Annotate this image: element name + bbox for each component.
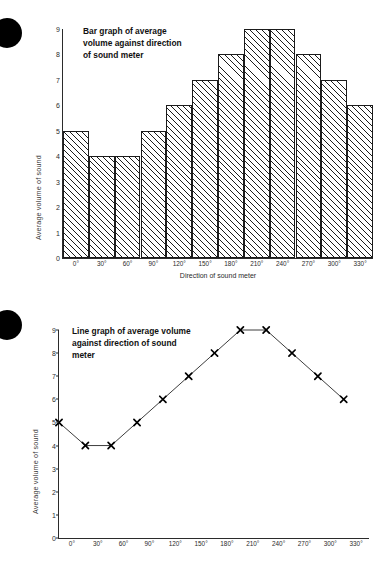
y-axis-tick-label: 0 xyxy=(56,255,60,262)
y-axis-tick-mark xyxy=(56,538,59,539)
y-axis-tick-label: 7 xyxy=(56,76,60,83)
x-axis-tick-label: 60° xyxy=(119,541,129,547)
bar xyxy=(244,29,270,258)
x-axis-tick-label: 90° xyxy=(149,261,159,267)
y-axis-tick-mark xyxy=(56,468,59,469)
y-axis-tick-label: 8 xyxy=(56,51,60,58)
data-point-marker xyxy=(289,350,295,356)
x-axis-tick-label: 30° xyxy=(97,261,107,267)
data-point-marker xyxy=(341,396,347,402)
bar xyxy=(270,29,296,258)
bar xyxy=(166,105,192,258)
bar xyxy=(296,54,322,258)
x-axis-tick-label: 180° xyxy=(224,261,237,267)
bar-x-axis-title: Direction of sound meter xyxy=(63,272,373,279)
bar-graph-figure: Average volume of sound Bar graph of ave… xyxy=(0,0,379,290)
y-axis-tick-label: 2 xyxy=(56,204,60,211)
x-axis-tick-label: 180° xyxy=(220,541,233,547)
y-axis-tick-mark xyxy=(56,399,59,400)
y-axis-tick-mark xyxy=(56,353,59,354)
data-point-marker xyxy=(211,350,217,356)
y-axis-tick-mark xyxy=(56,445,59,446)
x-axis-tick-label: 30° xyxy=(93,541,103,547)
x-axis-tick-label: 60° xyxy=(123,261,133,267)
data-point-marker xyxy=(134,419,140,425)
x-axis-tick-label: 90° xyxy=(145,541,155,547)
y-axis-tick-label: 9 xyxy=(56,26,60,33)
y-axis-tick-label: 5 xyxy=(56,127,60,134)
line-graph-figure: Average volume of sound Line graph of av… xyxy=(0,290,379,569)
x-axis-tick-label: 0° xyxy=(73,261,79,267)
y-axis-tick-mark xyxy=(56,514,59,515)
x-axis-tick-label: 120° xyxy=(173,261,186,267)
bar-plot-area: Bar graph of average volume against dire… xyxy=(62,29,373,259)
bar xyxy=(218,54,244,258)
x-axis-tick-label: 300° xyxy=(328,261,341,267)
bar xyxy=(321,80,347,258)
y-axis-tick-mark xyxy=(56,422,59,423)
bar xyxy=(141,131,167,258)
x-axis-tick-label: 270° xyxy=(298,541,311,547)
y-axis-tick-label: 6 xyxy=(56,102,60,109)
x-axis-tick-label: 0° xyxy=(69,541,75,547)
x-axis-tick-label: 300° xyxy=(324,541,337,547)
x-axis-tick-label: 330° xyxy=(349,541,362,547)
data-point-marker xyxy=(160,396,166,402)
x-axis-tick-label: 210° xyxy=(246,541,259,547)
bar-y-axis-label: Average volume of sound xyxy=(34,155,43,240)
y-axis-tick-label: 3 xyxy=(56,178,60,185)
x-axis-tick-label: 150° xyxy=(194,541,207,547)
y-axis-tick-label: 1 xyxy=(56,229,60,236)
x-axis-tick-label: 240° xyxy=(276,261,289,267)
bar xyxy=(63,131,89,258)
y-axis-tick-label: 4 xyxy=(56,153,60,160)
x-axis-tick-label: 240° xyxy=(272,541,285,547)
bar-series xyxy=(63,29,373,258)
x-axis-tick-label: 120° xyxy=(169,541,182,547)
data-point-marker xyxy=(315,373,321,379)
bar xyxy=(192,80,218,258)
y-axis-tick-mark xyxy=(56,330,59,331)
bullet-marker-icon xyxy=(0,310,22,340)
line-path xyxy=(59,330,344,446)
x-axis-tick-label: 150° xyxy=(198,261,211,267)
x-axis-tick-label: 270° xyxy=(302,261,315,267)
line-plot-area: Line graph of average volume against dir… xyxy=(58,330,369,539)
bar xyxy=(115,156,141,258)
y-axis-tick-mark xyxy=(56,491,59,492)
line-y-axis-label: Average volume of sound xyxy=(31,429,40,514)
bullet-marker-icon xyxy=(0,18,22,48)
y-axis-tick-mark xyxy=(56,376,59,377)
bar xyxy=(347,105,373,258)
x-axis-tick-label: 330° xyxy=(353,261,366,267)
bar xyxy=(89,156,115,258)
data-point-marker xyxy=(186,373,192,379)
x-axis-tick-label: 210° xyxy=(250,261,263,267)
line-series xyxy=(59,330,369,538)
